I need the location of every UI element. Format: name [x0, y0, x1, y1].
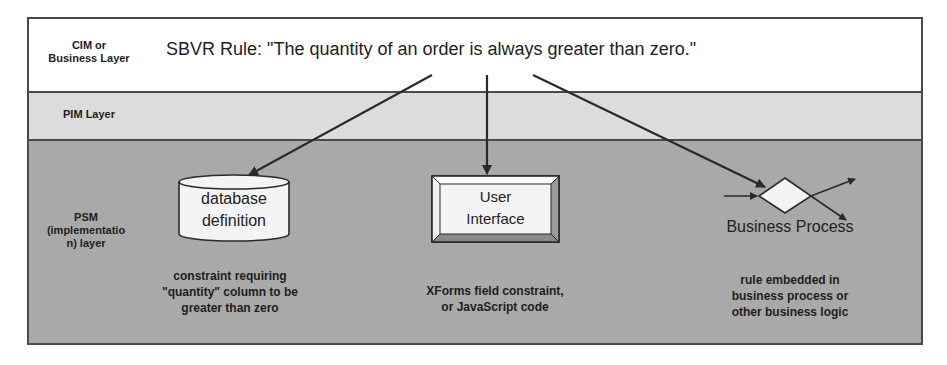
ui-desc-line1: XForms field constraint,	[390, 283, 600, 299]
database-desc-line3: greater than zero	[140, 300, 320, 316]
ui-desc-line2: or JavaScript code	[390, 299, 600, 315]
user-interface-node-label: User Interface	[432, 186, 559, 230]
database-desc-line2: "quantity" column to be	[140, 284, 320, 300]
database-desc-line1: constraint requiring	[140, 268, 320, 284]
arrow-to-business-process	[533, 75, 765, 187]
database-label-line2: definition	[179, 210, 289, 232]
bp-desc-line1: rule embedded in	[705, 272, 875, 288]
arrow-to-database	[249, 75, 432, 175]
database-node-label: database definition	[179, 188, 289, 232]
business-process-description: rule embedded in business process or oth…	[705, 272, 875, 320]
ui-label-line1: User	[432, 186, 559, 208]
ui-label-line2: Interface	[432, 208, 559, 230]
business-process-diamond-icon	[724, 178, 855, 220]
bp-desc-line3: other business logic	[705, 304, 875, 320]
database-description: constraint requiring "quantity" column t…	[140, 268, 320, 316]
bp-desc-line2: business process or	[705, 288, 875, 304]
user-interface-description: XForms field constraint, or JavaScript c…	[390, 283, 600, 315]
database-label-line1: database	[179, 188, 289, 210]
business-process-node-label: Business Process	[705, 218, 875, 236]
